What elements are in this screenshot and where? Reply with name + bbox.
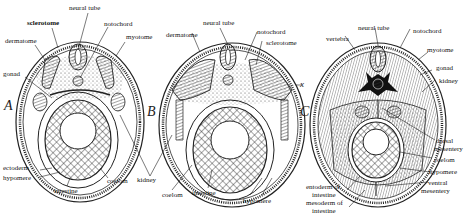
label-a-notochord: notochord: [104, 21, 132, 28]
diagram-drawing: [0, 0, 464, 213]
label-c-hypomere: hypomere: [429, 169, 457, 176]
panel-label-b: B: [147, 104, 156, 120]
label-a-myotome: myotome: [126, 34, 152, 41]
label-b-hypomere: hypomere: [243, 198, 271, 205]
label-a-hypomere: hypomere: [3, 175, 31, 182]
panel-label-a: A: [4, 98, 13, 114]
label-c-mesoderm-line1: mesoderm of: [306, 200, 343, 207]
label-c-neural-tube: neural tube: [358, 25, 389, 32]
label-a-intestine: intestine: [54, 188, 78, 195]
label-c-dorsal-mesentery-line2: mesentery: [434, 146, 463, 153]
embryo-cross-section-figure: A B C neural tube sclerotome notochord d…: [0, 0, 464, 213]
label-a-gonad: gonad: [3, 71, 20, 78]
label-c-gonad: gonad: [436, 65, 453, 72]
label-c-mesoderm-line2: intestine: [312, 208, 336, 213]
panel-b-drawing: [159, 43, 305, 207]
label-a-neural-tube: neural tube: [69, 5, 100, 12]
label-c-entoderm-line1: entoderm of: [306, 184, 340, 191]
label-b-kidney: kidney: [137, 177, 156, 184]
label-c-vertebra: vertebra: [326, 36, 349, 43]
label-c-kidney: kidney: [439, 78, 458, 85]
label-b-intestine: intestine: [192, 190, 216, 197]
label-b-x-marker: x: [300, 81, 304, 88]
label-c-entoderm-line2: intestine: [312, 192, 336, 199]
panel-label-c: C: [300, 104, 309, 120]
label-c-myotome: myotome: [427, 47, 453, 54]
label-c-coelom: coelom: [434, 157, 455, 164]
label-a-coelom: coelom: [107, 178, 128, 185]
label-b-notochord: notochord: [257, 29, 285, 36]
label-b-sclerotome: sclerotome: [266, 40, 297, 47]
label-c-ventral-mesentery-line1: ventral: [428, 180, 447, 187]
label-c-dorsal-mesentery-line1: dorsal: [436, 138, 453, 145]
label-b-coelom: coelom: [162, 192, 183, 199]
label-c-notochord: notochord: [413, 28, 441, 35]
label-b-dermatome: dermatome: [166, 32, 198, 39]
label-b-neural-tube: neural tube: [203, 20, 234, 27]
label-a-ectoderm: ectoderm: [3, 165, 29, 172]
label-a-dermatome: dermatome: [5, 38, 37, 45]
label-a-sclerotome: sclerotome: [27, 20, 59, 27]
label-c-ventral-mesentery-line2: mesentery: [421, 188, 450, 195]
